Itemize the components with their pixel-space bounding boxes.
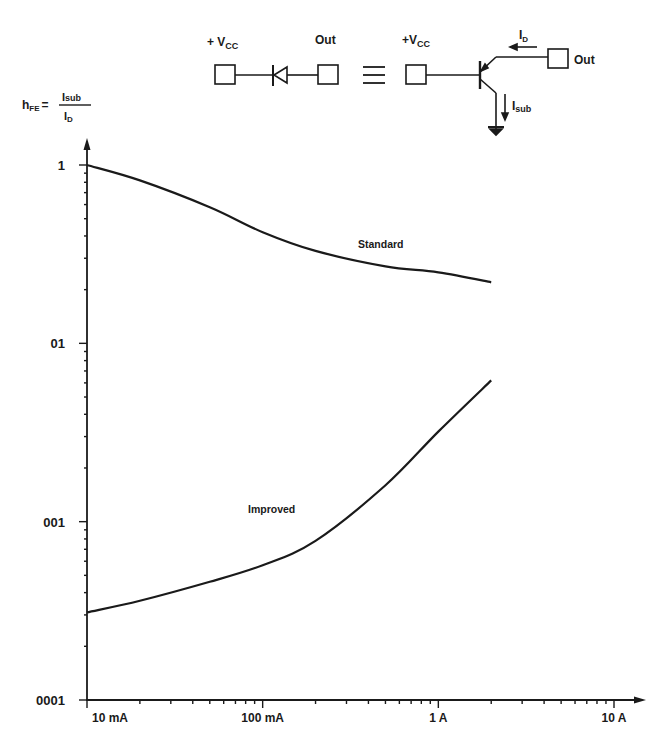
x-tick-label: 100 mA xyxy=(241,711,284,725)
x-tick-label: 10 A xyxy=(602,711,627,725)
x-tick-label: 10 mA xyxy=(92,711,128,725)
vcc-pad-left xyxy=(215,65,235,84)
isub-label: Isub xyxy=(512,99,532,114)
pnp-transistor-icon xyxy=(480,57,548,135)
svg-text:hFE=: hFE= xyxy=(22,98,49,113)
vcc-label-right: +VCC xyxy=(402,33,431,49)
out-label-left: Out xyxy=(315,33,336,47)
out-label-right: Out xyxy=(574,53,595,67)
curve-improved xyxy=(87,380,491,612)
axes xyxy=(84,138,647,704)
circuit-diagram xyxy=(215,44,568,135)
axis-tick-labels: 101001000110 mA100 mA1 A10 A xyxy=(36,158,627,725)
y-axis-formula: hFE= Isub ID xyxy=(22,91,91,124)
series-label-standard: Standard xyxy=(358,238,404,250)
curves xyxy=(87,165,491,612)
formula-numerator: Isub xyxy=(62,91,82,103)
vcc-label-left: + VCC xyxy=(207,35,239,51)
y-tick-label: 1 xyxy=(58,158,65,173)
out-pad-right xyxy=(548,49,568,68)
vcc-pad-right xyxy=(406,65,426,84)
diode-icon xyxy=(273,65,287,86)
y-tick-label: 001 xyxy=(43,515,65,530)
equivalent-icon xyxy=(363,67,385,83)
curve-standard xyxy=(87,165,491,282)
isub-arrow-icon xyxy=(502,94,508,120)
x-axis-arrow-icon xyxy=(634,697,646,704)
axis-ticks xyxy=(79,165,614,708)
y-tick-label: 01 xyxy=(51,336,65,351)
x-tick-label: 1 A xyxy=(429,711,448,725)
series-label-improved: Improved xyxy=(248,503,295,515)
out-pad-left xyxy=(318,65,338,84)
formula-denominator: ID xyxy=(64,110,73,124)
hfe-chart: + VCC Out +VCC ID Out Isub hFE= Isub ID … xyxy=(0,0,668,749)
id-arrow-icon xyxy=(510,44,537,50)
y-axis-arrow-icon xyxy=(84,138,91,150)
y-tick-label: 0001 xyxy=(36,693,65,708)
series-labels: StandardImproved xyxy=(248,238,404,515)
id-label: ID xyxy=(519,28,528,44)
